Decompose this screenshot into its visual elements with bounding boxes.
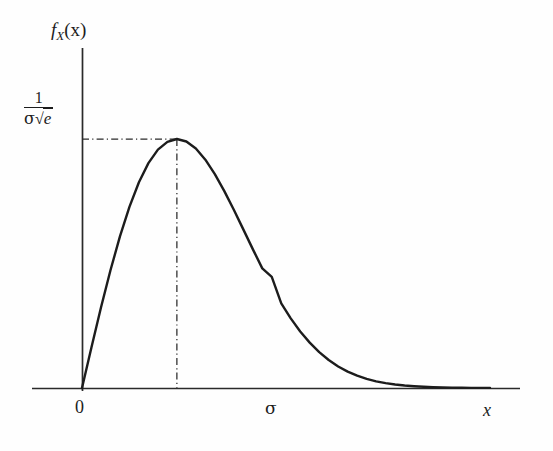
y-axis-label: fX(x) bbox=[51, 20, 86, 42]
rayleigh-pdf-curve bbox=[82, 139, 490, 388]
sigma-symbol: σ bbox=[24, 109, 35, 128]
x-axis-tick-label-origin: 0 bbox=[75, 398, 84, 416]
rayleigh-pdf-figure: fX(x) 1 σ√e 0 σ x bbox=[0, 0, 553, 451]
y-axis-label-argument: (x) bbox=[64, 19, 86, 40]
radicand-e: e bbox=[43, 108, 54, 128]
plot-canvas bbox=[0, 0, 553, 451]
fraction-denominator: σ√e bbox=[24, 108, 53, 127]
x-axis-tick-label-sigma: σ bbox=[265, 400, 277, 417]
y-axis-tick-label-peak: 1 σ√e bbox=[24, 90, 53, 127]
fraction-numerator: 1 bbox=[24, 90, 53, 108]
x-axis-label: x bbox=[483, 401, 491, 419]
